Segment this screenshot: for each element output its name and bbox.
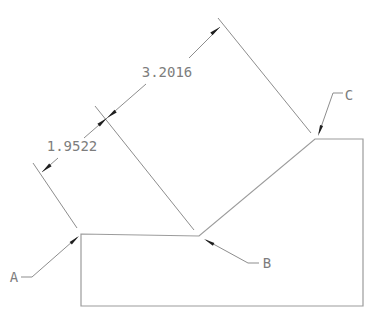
drawing-canvas: 1.9522 3.2016 A B C <box>0 0 376 322</box>
leader-c-arrowhead-icon <box>318 125 323 136</box>
leader-a-arrowhead-icon <box>70 236 79 244</box>
vertex-label-a: A <box>10 269 19 285</box>
vertex-label-c: C <box>345 87 353 103</box>
dim1-lower-arrowhead-icon <box>42 164 52 173</box>
extension-line-a <box>33 163 77 228</box>
dimension-value-1: 1.9522 <box>47 138 98 154</box>
leader-b-arrowhead-icon <box>204 239 214 246</box>
cad-drawing: 1.9522 3.2016 A B C <box>0 0 376 322</box>
dim2-upper-arrowhead-icon <box>210 27 220 35</box>
dim2-lower-arrowhead-icon <box>107 110 117 118</box>
dim1-upper-arrowhead-icon <box>97 118 107 127</box>
leader-line-a <box>21 238 77 278</box>
vertex-label-b: B <box>263 255 271 271</box>
arrowheads <box>42 27 323 246</box>
part-outline <box>81 139 363 306</box>
extension-line-c <box>218 18 311 133</box>
dimension-value-2: 3.2016 <box>142 64 193 80</box>
extension-line-b <box>95 106 194 230</box>
part-geometry <box>81 139 363 306</box>
